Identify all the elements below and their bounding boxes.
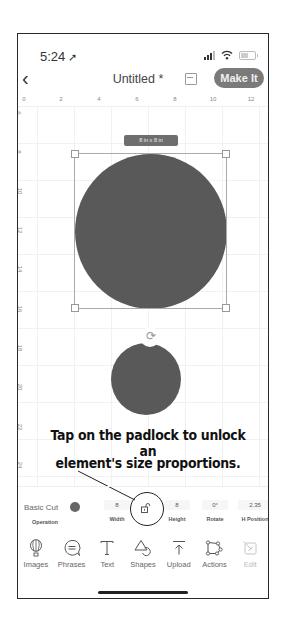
resize-handle-top-right[interactable] — [222, 150, 230, 158]
ruler-tick: 8 — [173, 96, 176, 102]
toolbar-phrases-label: Phrases — [54, 560, 90, 569]
height-value[interactable]: 8 — [164, 500, 190, 510]
h-position-field[interactable]: 2.35 H Position — [238, 500, 269, 522]
toolbar-images-label: Images — [18, 560, 54, 569]
horizontal-ruler: 0 2 4 6 8 10 12 — [18, 94, 268, 106]
text-icon — [100, 540, 114, 556]
bottom-toolbar: Images Phrases Text — [18, 538, 268, 578]
toolbar-upload-label: Upload — [161, 560, 197, 569]
shapes-icon — [134, 539, 152, 557]
height-field[interactable]: 8 Height — [164, 500, 190, 522]
toolbar-shapes-label: Shapes — [125, 560, 161, 569]
toolbar-images[interactable]: Images — [18, 538, 54, 578]
wifi-icon — [221, 50, 233, 60]
actions-icon — [205, 540, 223, 556]
resize-handle-top-left[interactable] — [71, 150, 79, 158]
balloon-icon — [29, 539, 43, 557]
height-label: Height — [164, 516, 190, 522]
battery-icon — [239, 51, 256, 60]
operation-color-swatch[interactable] — [70, 502, 80, 512]
ruler-tick: 12 — [17, 227, 23, 234]
operation-value[interactable]: Basic Cut — [24, 503, 58, 512]
phone-screen: 5:24➚ ‹ Untitled * Make It 0 2 4 6 8 10 … — [17, 33, 269, 599]
upload-icon — [172, 540, 186, 556]
resize-handle-bottom-right[interactable] — [222, 304, 230, 312]
operation-label: Operation — [32, 519, 58, 525]
time-text: 5:24 — [40, 49, 65, 64]
toolbar-shapes[interactable]: Shapes — [125, 538, 161, 578]
width-field[interactable]: 8 Width — [104, 500, 130, 522]
size-label: 8 in x 8 in — [124, 135, 178, 146]
speech-bubble-icon — [63, 539, 81, 557]
toolbar-phrases[interactable]: Phrases — [54, 538, 90, 578]
ruler-tick: 10 — [210, 96, 217, 102]
h-position-value[interactable]: 2.35 — [238, 500, 269, 510]
ruler-tick: 24 — [17, 462, 23, 469]
h-position-label: H Position — [238, 516, 269, 522]
rotate-icon[interactable]: ⟳ — [144, 330, 157, 343]
ruler-tick: 18 — [17, 345, 23, 352]
ruler-tick: 6 — [17, 111, 22, 114]
vertical-ruler: 6 8 10 12 14 16 18 20 22 24 — [18, 34, 28, 486]
annotation-line-2: element's size proportions. — [45, 455, 251, 471]
ruler-tick: 4 — [97, 96, 100, 102]
ruler-tick: 14 — [17, 266, 23, 273]
toolbar-actions[interactable]: Actions — [197, 538, 233, 578]
rotate-label: Rotate — [202, 516, 228, 522]
status-icons — [204, 50, 256, 60]
ruler-tick: 20 — [17, 384, 23, 391]
ruler-tick: 10 — [17, 188, 23, 195]
ruler-tick: 12 — [248, 96, 255, 102]
signal-icon — [204, 51, 215, 60]
ruler-tick: 16 — [17, 306, 23, 313]
rotate-value[interactable]: 0° — [202, 500, 228, 510]
ruler-tick: 6 — [135, 96, 138, 102]
make-it-button[interactable]: Make It — [214, 68, 264, 88]
edit-icon — [242, 540, 258, 556]
toolbar-actions-label: Actions — [197, 560, 233, 569]
circle-shape[interactable] — [111, 343, 181, 415]
ruler-tick: 22 — [17, 424, 23, 431]
ruler-tick: 2 — [59, 96, 62, 102]
location-arrow-icon: ➚ — [68, 51, 77, 63]
width-value[interactable]: 8 — [104, 500, 130, 510]
resize-handle-bottom-left[interactable] — [71, 304, 79, 312]
toolbar-upload[interactable]: Upload — [161, 538, 197, 578]
toolbar-edit[interactable]: Edit — [232, 538, 268, 578]
rotate-field[interactable]: 0° Rotate — [202, 500, 228, 522]
home-indicator[interactable] — [98, 591, 188, 594]
toolbar-text[interactable]: Text — [89, 538, 125, 578]
save-icon[interactable] — [185, 73, 197, 85]
ruler-tick: 8 — [17, 150, 22, 153]
toolbar-edit-label: Edit — [232, 560, 268, 569]
width-label: Width — [104, 516, 130, 522]
selection-box[interactable] — [74, 153, 227, 309]
status-time: 5:24➚ — [40, 49, 77, 64]
toolbar-text-label: Text — [89, 560, 125, 569]
unlocked-padlock-icon[interactable] — [141, 503, 151, 513]
